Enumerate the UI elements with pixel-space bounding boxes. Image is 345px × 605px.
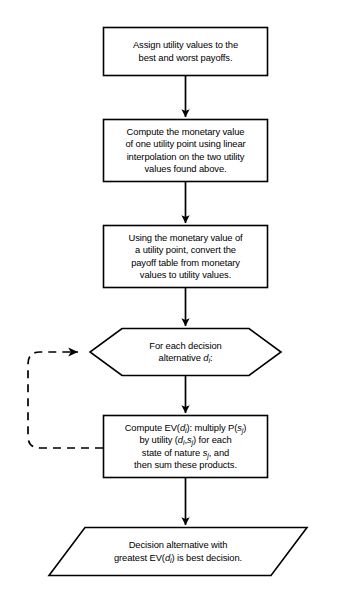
- node-compute-monetary-value-shape: [104, 120, 268, 182]
- node-assign-utility-values-shape: [104, 28, 268, 76]
- node-convert-payoff-table-shape: [104, 226, 268, 288]
- flowchart-canvas: Assign utility values to the best and wo…: [0, 0, 345, 605]
- node-best-decision-output-shape: [49, 528, 307, 576]
- connector-loop-ev-back-to-foreach: [28, 352, 103, 448]
- node-compute-expected-value-shape: [104, 416, 268, 478]
- flowchart-shapes-and-connectors: [0, 0, 345, 605]
- node-for-each-decision-alternative-shape: [90, 329, 281, 376]
